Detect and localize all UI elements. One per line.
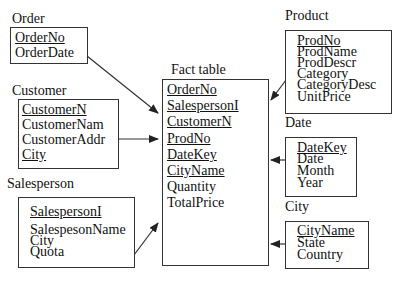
field-cityname: CityName xyxy=(167,163,225,179)
field-city: City xyxy=(22,147,46,163)
field-orderno: OrderNo xyxy=(15,30,65,46)
fact-table-title: Fact table xyxy=(171,62,226,77)
order-table-title: Order xyxy=(12,11,45,26)
product-table[interactable]: ProdNo ProdName ProdDescr Category Categ… xyxy=(285,30,392,114)
field-salespersoni: SalespersonI xyxy=(167,98,239,114)
salesperson-table[interactable]: SalespersonI SalespesonName City Quota xyxy=(18,197,135,268)
field-salespersoni: SalespersonI xyxy=(30,204,102,220)
field-prodno: ProdNo xyxy=(167,131,211,147)
field-country: Country xyxy=(297,247,343,263)
fact-table[interactable]: OrderNo SalespersonI CustomerN ProdNo Da… xyxy=(162,79,269,266)
field-customern: CustomerN xyxy=(22,102,87,118)
city-table[interactable]: CityName State Country xyxy=(285,221,369,269)
salesperson-table-title: Salesperson xyxy=(7,176,74,191)
field-datekey: DateKey xyxy=(167,147,217,163)
field-orderdate: OrderDate xyxy=(15,45,74,61)
field-unitprice: UnitPrice xyxy=(297,89,351,105)
field-quota: Quota xyxy=(30,244,64,260)
customer-table-title: Customer xyxy=(12,83,66,98)
customer-table[interactable]: CustomerN CustomerNam CustomerAddr City xyxy=(18,99,119,169)
field-customeraddr: CustomerAddr xyxy=(22,132,105,148)
date-table[interactable]: DateKey Date Month Year xyxy=(285,137,357,197)
field-year: Year xyxy=(297,175,323,191)
field-customern: CustomerN xyxy=(167,114,232,130)
field-customernam: CustomerNam xyxy=(22,117,104,133)
product-table-title: Product xyxy=(285,8,329,23)
city-table-title: City xyxy=(285,199,309,214)
order-table[interactable]: OrderNo OrderDate xyxy=(10,27,88,64)
field-orderno: OrderNo xyxy=(167,82,217,98)
date-table-title: Date xyxy=(285,115,311,130)
field-quantity: Quantity xyxy=(167,179,216,195)
field-totalprice: TotalPrice xyxy=(167,195,224,211)
